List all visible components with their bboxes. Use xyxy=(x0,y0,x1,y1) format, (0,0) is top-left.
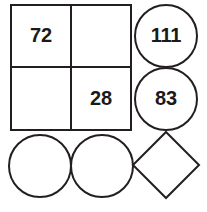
figure-canvas: 72 28 111 83 xyxy=(0,0,207,212)
circle-83-value: 83 xyxy=(155,87,177,109)
grid-cell-top-left-value: 72 xyxy=(30,24,52,46)
circle-empty-right-outline xyxy=(71,135,133,197)
circle-111-value: 111 xyxy=(151,24,182,46)
bottom-circle-row xyxy=(9,135,133,197)
grid-cell-bottom-right-value: 28 xyxy=(90,87,112,109)
shape-puzzle-figure: 72 28 111 83 xyxy=(0,0,207,212)
square-grid: 72 28 xyxy=(11,5,131,130)
circle-empty-left-outline xyxy=(9,135,71,197)
right-circle-stack: 111 83 xyxy=(135,5,197,130)
diamond-group xyxy=(133,132,199,198)
diamond-empty-outline xyxy=(133,132,199,198)
